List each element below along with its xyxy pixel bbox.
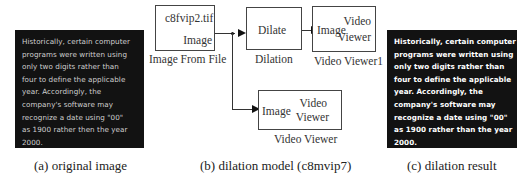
- video-viewer-block[interactable]: Image Video Viewer: [258, 90, 342, 130]
- viewer-title-line1: Video: [300, 97, 327, 109]
- dilation-result-image: Historically, certain computer programs …: [387, 30, 517, 148]
- original-image-text: Historically, certain computer programs …: [22, 36, 139, 149]
- caption-dilation-model: (b) dilation model (c8mvip7): [200, 158, 351, 174]
- arrowhead-dilate-input: [238, 29, 246, 37]
- viewer-input-port: Image: [262, 105, 291, 117]
- viewer1-title-line1: Video: [344, 15, 371, 27]
- viewer1-title-line2: Viewer: [338, 31, 371, 43]
- video-viewer1-label: Video Viewer1: [314, 55, 383, 67]
- dilate-block[interactable]: Dilate: [246, 7, 302, 50]
- caption-dilation-result: (c) dilation result: [407, 158, 497, 174]
- image-from-file-block[interactable]: c8fvip2.tif Image: [155, 5, 215, 51]
- dilation-result-text: Historically, certain computer programs …: [394, 36, 512, 149]
- caption-original-image: (a) original image: [34, 158, 127, 174]
- viewer-title-line2: Viewer: [296, 111, 329, 123]
- video-viewer1-block[interactable]: Image Video Viewer: [312, 6, 376, 52]
- file-output-port: Image: [183, 34, 212, 46]
- image-from-file-label: Image From File: [149, 53, 226, 65]
- original-image: Historically, certain computer programs …: [15, 30, 144, 148]
- signal-line-dilate-to-viewer1: [302, 30, 311, 31]
- video-viewer-label: Video Viewer: [274, 133, 337, 145]
- file-name: c8fvip2.tif: [165, 12, 213, 24]
- signal-line-branch: [232, 33, 233, 109]
- dilation-label: Dilation: [255, 53, 293, 65]
- dilate-block-title: Dilate: [258, 24, 286, 36]
- signal-line-to-viewer: [232, 109, 252, 110]
